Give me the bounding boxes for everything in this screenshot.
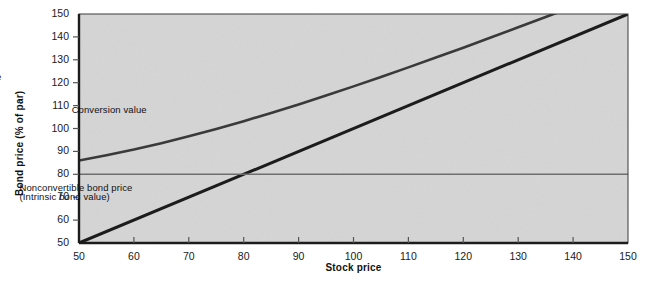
chart-annotation: Conversion value [72,104,147,115]
plot-canvas [0,0,668,288]
chart-annotation: (Intrinsic bond value) [20,191,110,202]
chart-figure: Bond price (% of par) Stock price 506070… [0,0,668,288]
chart-annotation: Convertible bond price [0,71,1,82]
